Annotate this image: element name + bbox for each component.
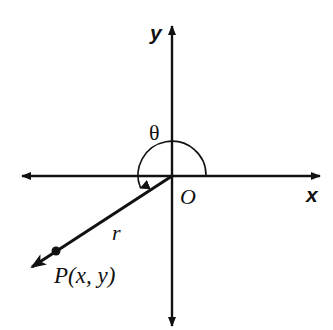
coordinate-diagram: y x O θ r P(x, y) [0,0,333,330]
point-p-label: P(x, y) [53,263,115,288]
theta-label: θ [149,120,160,145]
x-axis-label: x [305,183,319,206]
origin-label: O [180,184,196,209]
point-p-dot [52,247,61,256]
y-axis-label: y [149,21,163,44]
radius-label: r [112,220,121,245]
